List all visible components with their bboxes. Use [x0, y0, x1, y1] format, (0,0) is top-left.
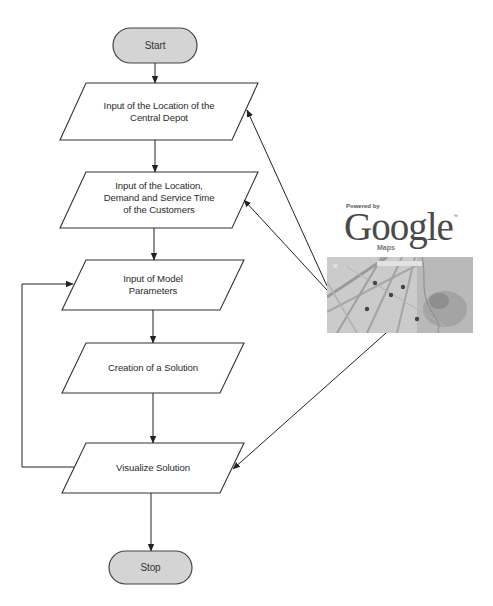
p2-label: Input of the Location, Demand and Servic… [72, 174, 246, 222]
arrow-feedback-loop [22, 284, 74, 467]
trademark-symbol: ™ [453, 213, 458, 219]
p1-label: Input of the Location of the Central Dep… [72, 86, 246, 138]
p4-label: Creation of a Solution [74, 343, 232, 393]
google-wordmark: Google [344, 207, 453, 247]
maps-text: Maps [377, 244, 395, 251]
google-maps-logo: Powered by Google ™ Maps [340, 200, 470, 258]
stop-label: Stop [109, 551, 192, 584]
arrow-maps-to-p5 [233, 333, 386, 469]
arrow-maps-to-p2 [244, 200, 327, 290]
svg-text:✕: ✕ [332, 262, 339, 271]
p5-label: Visualize Solution [74, 443, 232, 493]
p3-label: Input of Model Parameters [74, 262, 232, 308]
arrow-maps-to-p1 [247, 110, 327, 286]
map-thumbnail-icon: ✕ [327, 257, 473, 333]
start-label: Start [113, 28, 197, 63]
